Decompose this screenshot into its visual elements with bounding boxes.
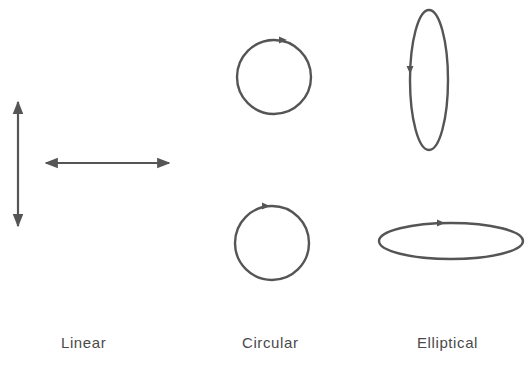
circular-top-circle	[237, 37, 311, 115]
elliptical-horizontal-ellipse	[379, 220, 523, 260]
direction-arrow-icon	[262, 203, 270, 210]
direction-arrow-icon	[437, 220, 445, 227]
label-linear: Linear	[61, 334, 106, 351]
polarization-diagram	[0, 0, 528, 373]
elliptical-vertical-ellipse	[407, 10, 449, 150]
label-circular: Circular	[242, 334, 298, 351]
label-elliptical: Elliptical	[417, 334, 478, 351]
direction-arrow-icon	[407, 66, 414, 74]
circular-bottom-circle	[235, 203, 309, 281]
